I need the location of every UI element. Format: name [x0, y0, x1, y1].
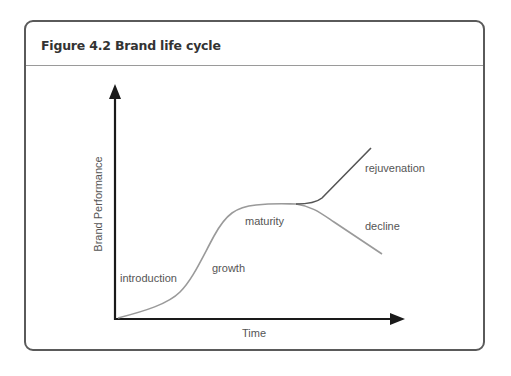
stage-label-maturity: maturity — [245, 215, 285, 227]
stage-label-growth: growth — [212, 262, 245, 274]
stage-label-introduction: introduction — [120, 272, 177, 284]
stage-label-rejuvenation: rejuvenation — [365, 162, 425, 174]
y-axis-arrow-icon — [109, 84, 121, 99]
brand-life-cycle-chart: Brand Performance Time introduction grow… — [0, 0, 511, 376]
x-axis-label: Time — [242, 327, 266, 339]
rejuvenation-curve — [296, 148, 371, 204]
x-axis-arrow-icon — [390, 313, 405, 325]
stage-label-decline: decline — [365, 220, 400, 232]
y-axis-label: Brand Performance — [92, 156, 104, 251]
